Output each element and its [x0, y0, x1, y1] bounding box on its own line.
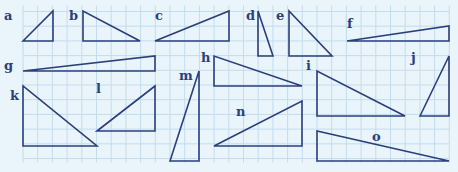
triangle-label: k — [10, 88, 20, 103]
triangle-label: o — [372, 129, 381, 144]
triangle-o: o — [317, 129, 449, 161]
triangle-c: c — [155, 8, 229, 41]
right-triangle-shape — [155, 11, 229, 41]
right-triangle-shape — [23, 86, 97, 146]
triangle-label: h — [201, 50, 211, 65]
triangle-label: m — [179, 68, 193, 83]
right-triangle-shape — [317, 131, 449, 161]
right-triangle-shape — [97, 86, 155, 131]
triangle-j: j — [410, 50, 449, 116]
triangle-f: f — [347, 16, 449, 41]
triangle-worksheet-grid: abcdefghijklmno — [0, 0, 458, 172]
right-triangle-shape — [170, 71, 199, 161]
right-triangle-shape — [317, 71, 405, 116]
triangle-label: f — [347, 16, 354, 31]
right-triangle-shape — [83, 11, 140, 41]
triangle-label: b — [69, 8, 78, 23]
triangle-label: l — [96, 81, 101, 96]
right-triangles-layer: abcdefghijklmno — [0, 0, 458, 172]
triangle-a: a — [4, 8, 53, 41]
triangle-label: a — [4, 8, 13, 23]
right-triangle-shape — [347, 26, 449, 41]
right-triangle-shape — [214, 56, 302, 86]
triangle-label: d — [246, 8, 255, 23]
triangle-e: e — [276, 8, 332, 56]
triangle-b: b — [69, 8, 140, 41]
triangle-l: l — [96, 81, 155, 131]
triangle-label: e — [276, 8, 284, 23]
triangle-i: i — [306, 58, 405, 116]
right-triangle-shape — [214, 101, 302, 146]
right-triangle-shape — [23, 11, 53, 41]
right-triangle-shape — [289, 11, 332, 56]
right-triangle-shape — [23, 56, 155, 71]
triangle-label: j — [410, 50, 416, 65]
triangle-n: n — [214, 101, 302, 146]
triangle-m: m — [170, 68, 199, 161]
triangle-k: k — [10, 86, 97, 146]
right-triangle-shape — [258, 11, 273, 56]
triangle-label: g — [4, 58, 13, 73]
triangle-label: c — [155, 8, 163, 23]
triangle-g: g — [4, 56, 155, 73]
triangle-label: i — [306, 58, 311, 73]
triangle-d: d — [246, 8, 273, 56]
triangle-h: h — [201, 50, 302, 86]
triangle-label: n — [236, 104, 246, 119]
right-triangle-shape — [420, 56, 449, 116]
